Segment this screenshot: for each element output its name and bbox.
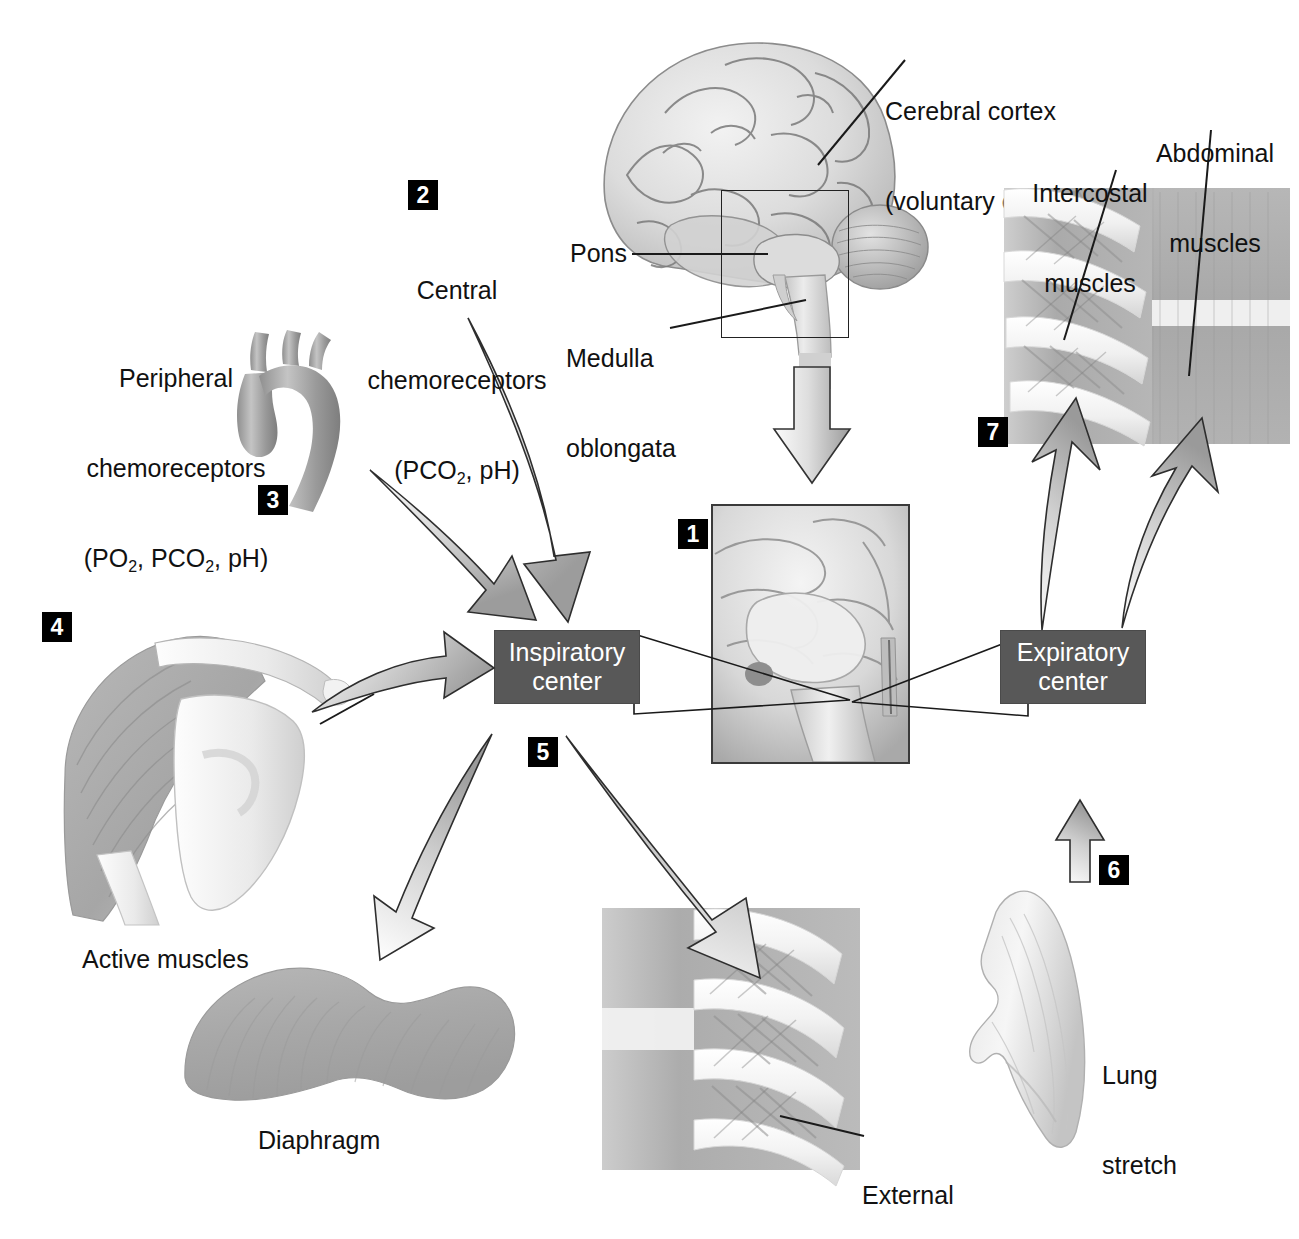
step-badge-2: 2 xyxy=(408,180,438,210)
step-badge-7: 7 xyxy=(978,417,1008,447)
label-central-chemoreceptors: Central chemoreceptors (PCO2, pH) xyxy=(342,215,572,549)
step-badge-3: 3 xyxy=(258,485,288,515)
central-chemoreceptors-line3: (PCO2, pH) xyxy=(342,455,572,489)
arrow-active-muscles xyxy=(312,632,494,712)
step-badge-1: 1 xyxy=(678,519,708,549)
step-badge-4: 4 xyxy=(42,612,72,642)
step-badge-6: 6 xyxy=(1099,855,1129,885)
arrow-to-intercostal-muscles xyxy=(1032,398,1100,630)
respiratory-control-figure: Cerebral cortex (voluntary control) Pons… xyxy=(0,0,1299,1239)
arrow-lung-stretch-to-expiratory xyxy=(1056,800,1104,882)
central-chemoreceptors-line2: chemoreceptors xyxy=(342,365,572,395)
arrow-to-abdominal-muscles xyxy=(1122,418,1218,628)
central-chemoreceptors-line1: Central xyxy=(342,275,572,305)
arrow-to-external-intercostals xyxy=(566,736,760,978)
arrow-to-diaphragm xyxy=(374,734,492,960)
peripheral-chemoreceptors-line1: Peripheral xyxy=(52,363,300,393)
label-peripheral-chemoreceptors: Peripheral chemoreceptors (PO2, PCO2, pH… xyxy=(52,303,300,637)
peripheral-chemoreceptors-line3: (PO2, PCO2, pH) xyxy=(52,543,300,577)
step-badge-5: 5 xyxy=(528,737,558,767)
peripheral-chemoreceptors-line2: chemoreceptors xyxy=(52,453,300,483)
